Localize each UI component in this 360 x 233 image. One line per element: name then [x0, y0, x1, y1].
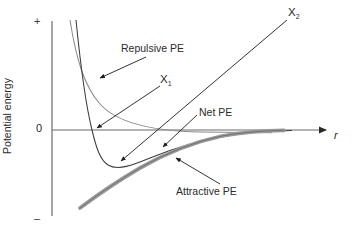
- potential-energy-diagram: Potential energy + 0 – r Repulsive PE Ne…: [0, 0, 360, 233]
- y-tick-zero: 0: [36, 123, 42, 134]
- leader-repulsive: [100, 57, 146, 78]
- plot-canvas: [0, 0, 360, 233]
- y-tick-negative: –: [34, 213, 40, 224]
- label-x1-base: X: [160, 73, 168, 85]
- label-x1-subscript: 1: [168, 80, 172, 87]
- label-x2: X2: [288, 7, 300, 20]
- label-x2-base: X: [288, 6, 296, 18]
- label-repulsive-pe: Repulsive PE: [121, 43, 184, 54]
- leader-net-pe: [163, 115, 197, 147]
- label-x1: X1: [160, 74, 172, 87]
- x-axis-title: r: [334, 130, 338, 141]
- label-net-pe: Net PE: [199, 107, 232, 118]
- leader-attractive: [176, 158, 220, 184]
- label-attractive-pe: Attractive PE: [176, 186, 237, 197]
- y-axis-title: Potential energy: [2, 61, 13, 171]
- y-tick-positive: +: [34, 16, 40, 27]
- label-x2-subscript: 2: [296, 13, 300, 20]
